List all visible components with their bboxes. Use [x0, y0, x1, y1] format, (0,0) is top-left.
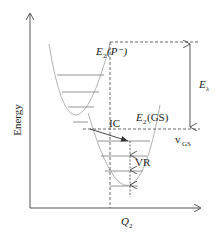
x-axis-label: Q 2	[121, 215, 133, 230]
vgs-label: v GS	[175, 133, 191, 148]
svg-text:2: 2	[129, 222, 133, 230]
svg-text:v: v	[175, 133, 181, 145]
energy-diagram: Energy Q 2 E 2 (P⁻) E 2 (GS) E λ v	[0, 0, 219, 236]
ic-arrow	[90, 129, 128, 141]
svg-text:(GS): (GS)	[147, 111, 169, 124]
e-lambda-label: E λ	[198, 78, 210, 93]
svg-text:λ: λ	[206, 85, 210, 93]
svg-text:E: E	[95, 45, 103, 57]
vr-label: VR	[135, 156, 151, 168]
y-axis-label: Energy	[11, 104, 23, 136]
svg-text:(P⁻): (P⁻)	[107, 45, 127, 58]
svg-text:GS: GS	[182, 140, 191, 148]
lower-curve-label: E 2 (GS)	[135, 111, 169, 126]
svg-text:Q: Q	[121, 215, 129, 227]
ic-label: IC	[109, 117, 120, 129]
upper-vibrational-levels	[57, 75, 104, 122]
upper-curve-label: E 2 (P⁻)	[95, 45, 127, 60]
svg-text:E: E	[198, 78, 206, 90]
svg-text:E: E	[135, 111, 143, 123]
